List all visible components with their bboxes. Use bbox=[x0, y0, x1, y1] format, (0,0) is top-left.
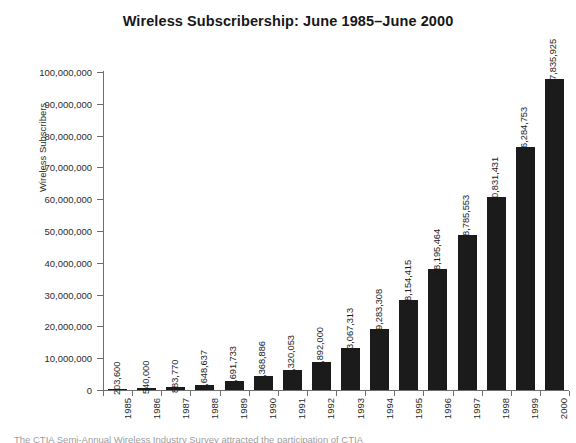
bar-value-label: 4,368,886 bbox=[257, 341, 267, 382]
bar-value-label: 19,283,308 bbox=[374, 289, 384, 335]
x-tick-mark bbox=[453, 391, 454, 396]
bar-value-label: 76,284,753 bbox=[519, 107, 529, 153]
x-tick-mark bbox=[307, 391, 308, 396]
bar-value-label: 6,320,053 bbox=[286, 335, 296, 376]
bar bbox=[516, 147, 535, 390]
x-tick-mark bbox=[540, 391, 541, 396]
x-tick-label: 1995 bbox=[413, 398, 424, 419]
bar-value-label: 2,691,733 bbox=[228, 347, 238, 388]
bar-value-label: 883,770 bbox=[170, 360, 180, 393]
bar bbox=[458, 235, 477, 390]
plot-area: 203,600540,000883,7701,648,6372,691,7334… bbox=[103, 72, 569, 390]
x-tick-label: 1993 bbox=[355, 398, 366, 419]
x-tick-mark bbox=[278, 391, 279, 396]
y-tick-label: 50,000,000 bbox=[44, 226, 92, 237]
x-tick-mark bbox=[511, 391, 512, 396]
x-tick-mark bbox=[249, 391, 250, 396]
y-tick-label: 0 bbox=[87, 385, 92, 396]
x-tick-label: 2000 bbox=[558, 398, 569, 419]
y-tick-label: 40,000,000 bbox=[44, 257, 92, 268]
y-tick-label: 30,000,000 bbox=[44, 289, 92, 300]
bar-value-label: 13,067,313 bbox=[345, 308, 355, 354]
y-tick-label: 100,000,000 bbox=[39, 67, 92, 78]
y-tick-label: 10,000,000 bbox=[44, 353, 92, 364]
bar-value-label: 28,154,415 bbox=[403, 260, 413, 306]
bar bbox=[487, 197, 506, 390]
x-tick-label: 1990 bbox=[267, 398, 278, 419]
page-title: Wireless Subscribership: June 1985–June … bbox=[0, 13, 576, 29]
y-tick-label: 60,000,000 bbox=[44, 194, 92, 205]
x-tick-mark bbox=[365, 391, 366, 396]
bar-value-label: 97,835,925 bbox=[548, 39, 558, 85]
x-tick-label: 1999 bbox=[529, 398, 540, 419]
x-tick-label: 1997 bbox=[471, 398, 482, 419]
x-tick-label: 1992 bbox=[325, 398, 336, 419]
source-caption: The CTIA Semi-Annual Wireless Industry S… bbox=[14, 434, 559, 443]
x-tick-label: 1986 bbox=[151, 398, 162, 419]
bar-value-label: 60,831,431 bbox=[490, 157, 500, 203]
y-tick-label: 80,000,000 bbox=[44, 130, 92, 141]
bar bbox=[545, 79, 564, 390]
x-tick-mark bbox=[423, 391, 424, 396]
x-tick-mark bbox=[482, 391, 483, 396]
x-tick-mark bbox=[220, 391, 221, 396]
x-tick-mark bbox=[569, 391, 570, 396]
bar bbox=[399, 300, 418, 390]
bar-value-label: 203,600 bbox=[112, 362, 122, 395]
y-tick-label: 20,000,000 bbox=[44, 321, 92, 332]
x-tick-label: 1987 bbox=[180, 398, 191, 419]
x-tick-mark bbox=[336, 391, 337, 396]
bar-value-label: 38,195,464 bbox=[432, 229, 442, 275]
bar bbox=[370, 329, 389, 390]
x-tick-label: 1988 bbox=[209, 398, 220, 419]
x-tick-label: 1994 bbox=[384, 398, 395, 419]
bar-value-label: 8,892,000 bbox=[315, 327, 325, 368]
y-tick-label: 90,000,000 bbox=[44, 98, 92, 109]
x-tick-mark bbox=[161, 391, 162, 396]
x-tick-label: 1985 bbox=[122, 398, 133, 419]
bar-value-label: 48,785,553 bbox=[461, 195, 471, 241]
x-tick-label: 1991 bbox=[296, 398, 307, 419]
x-tick-mark bbox=[394, 391, 395, 396]
bar bbox=[341, 348, 360, 390]
x-tick-label: 1989 bbox=[238, 398, 249, 419]
x-tick-label: 1996 bbox=[442, 398, 453, 419]
x-tick-mark bbox=[132, 391, 133, 396]
x-tick-mark bbox=[103, 391, 104, 396]
x-tick-label: 1998 bbox=[500, 398, 511, 419]
bar-value-label: 540,000 bbox=[141, 361, 151, 394]
y-tick-label: 70,000,000 bbox=[44, 162, 92, 173]
x-tick-mark bbox=[190, 391, 191, 396]
bar bbox=[428, 269, 447, 390]
bar-value-label: 1,648,637 bbox=[199, 350, 209, 391]
